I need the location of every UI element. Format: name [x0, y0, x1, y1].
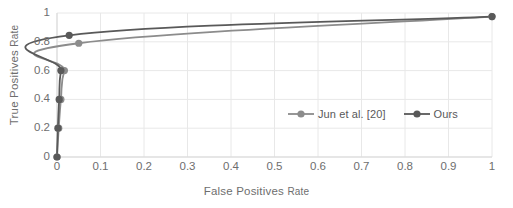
x-axis-tick-label: 0.1 — [86, 160, 116, 172]
x-axis-title-main: False Positives — [204, 185, 284, 197]
data-point-marker — [57, 67, 64, 74]
y-axis-title: True Positives Rate — [8, 0, 20, 150]
y-axis-title-suffix: Rate — [9, 25, 20, 47]
x-axis-tick-label: 0.7 — [347, 160, 377, 172]
y-axis-tick-label: 0.8 — [22, 35, 50, 47]
chart-legend: Jun et al. [20]Ours — [288, 103, 458, 125]
legend-label: Ours — [434, 109, 458, 120]
y-axis-tick-label: 1 — [22, 6, 50, 18]
data-point-marker — [488, 13, 495, 20]
legend-label: Jun et al. [20] — [318, 109, 386, 120]
x-axis-tick-label: 0.9 — [434, 160, 464, 172]
legend-marker-icon — [288, 108, 314, 120]
data-point-marker — [75, 40, 82, 47]
data-point-marker — [56, 96, 63, 103]
series-line — [34, 17, 492, 157]
series-line — [25, 17, 492, 157]
x-axis-tick-label: 1 — [477, 160, 507, 172]
legend-entry: Ours — [404, 108, 458, 120]
x-axis-tick-label: 0.3 — [173, 160, 203, 172]
y-axis-title-main: True Positives — [8, 50, 20, 125]
x-axis-tick-label: 0.5 — [260, 160, 290, 172]
y-axis-tick-label: 0 — [22, 150, 50, 162]
x-axis-title: False Positives Rate — [0, 185, 513, 197]
legend-entry: Jun et al. [20] — [288, 108, 386, 120]
x-axis-tick-label: 0.2 — [129, 160, 159, 172]
y-axis-tick-label: 0.4 — [22, 92, 50, 104]
x-axis-tick-label: 0.6 — [303, 160, 333, 172]
x-axis-title-suffix: Rate — [287, 186, 309, 197]
roc-chart: True Positives Rate False Positives Rate… — [0, 0, 513, 208]
data-point-marker — [66, 32, 73, 39]
legend-marker-icon — [404, 108, 430, 120]
x-axis-tick-label: 0.4 — [216, 160, 246, 172]
y-axis-tick-label: 0.6 — [22, 64, 50, 76]
x-axis-tick-label: 0.8 — [390, 160, 420, 172]
y-axis-tick-label: 0.2 — [22, 121, 50, 133]
data-point-marker — [54, 125, 61, 132]
